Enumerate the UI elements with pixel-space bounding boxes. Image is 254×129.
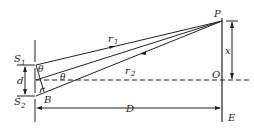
label-s2: S: [14, 96, 21, 107]
label-s1-sub: 1: [21, 59, 25, 67]
diagram-canvas: S 1 S 2 d θ θ B r 1 r 2 P O x D E: [0, 0, 254, 129]
label-s2-sub: 2: [20, 102, 26, 110]
label-b: B: [43, 94, 51, 105]
label-o: O: [212, 69, 220, 80]
double-slit-diagram: S 1 S 2 d θ θ B r 1 r 2 P O x D E: [0, 0, 254, 129]
label-p: P: [213, 8, 221, 19]
label-e: E: [227, 112, 236, 123]
label-x: x: [225, 45, 231, 56]
label-r2-sub: 2: [130, 70, 136, 78]
label-theta-top: θ: [38, 64, 44, 74]
label-d: d: [17, 75, 23, 86]
label-theta-mid: θ: [60, 72, 66, 82]
label-D: D: [125, 103, 134, 114]
label-r1-sub: 1: [114, 38, 118, 46]
label-s1: S: [14, 53, 21, 64]
